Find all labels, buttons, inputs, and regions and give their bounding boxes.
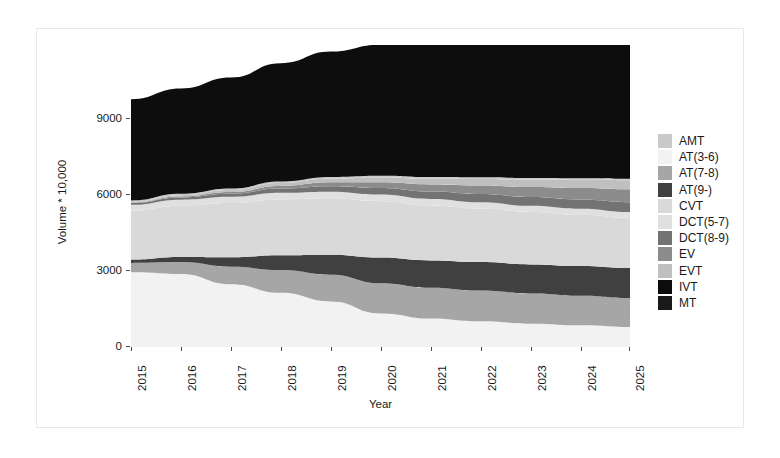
legend-swatch-icon <box>658 296 672 310</box>
figure-root: Volume * 10,000 9000 6000 3000 0 2015 20… <box>0 0 780 458</box>
y-tick-mark-6000 <box>126 194 130 195</box>
y-tick-label-3000: 3000 <box>62 264 122 276</box>
y-tick-label-6000: 6000 <box>62 188 122 200</box>
legend-item-label: AT(3-6) <box>679 151 719 163</box>
legend-item[interactable]: AT(3-6) <box>658 149 729 165</box>
y-tick-mark-9000 <box>126 118 130 119</box>
x-tick-label-2025: 2025 <box>634 365 646 391</box>
y-axis-title: Volume * 10,000 <box>56 122 68 282</box>
x-tick-mark-2020 <box>381 347 382 351</box>
legend-swatch-icon <box>658 166 672 180</box>
legend-item-label: AT(9-) <box>679 184 712 196</box>
legend-item[interactable]: AMT <box>658 133 729 149</box>
legend-item[interactable]: AT(7-8) <box>658 165 729 181</box>
y-tick-mark-3000 <box>126 270 130 271</box>
legend-item[interactable]: MT <box>658 295 729 311</box>
legend-item[interactable]: EVT <box>658 263 729 279</box>
legend-item-label: AMT <box>679 135 704 147</box>
x-tick-mark-2015 <box>131 347 132 351</box>
legend-item-label: IVT <box>679 281 698 293</box>
plot-panel <box>131 45 630 347</box>
legend-swatch-icon <box>658 231 672 245</box>
legend-item[interactable]: DCT(8-9) <box>658 230 729 246</box>
x-tick-mark-2022 <box>481 347 482 351</box>
legend-item[interactable]: IVT <box>658 279 729 295</box>
legend-swatch-icon <box>658 215 672 229</box>
legend-swatch-icon <box>658 150 672 164</box>
y-tick-mark-0 <box>126 346 130 347</box>
legend-item-label: AT(7-8) <box>679 167 719 179</box>
legend-item-label: DCT(8-9) <box>679 232 729 244</box>
x-tick-label-2024: 2024 <box>586 365 598 391</box>
legend-item-label: EVT <box>679 265 702 277</box>
y-tick-label-9000: 9000 <box>62 112 122 124</box>
legend-item-label: EV <box>679 248 695 260</box>
x-tick-label-2018: 2018 <box>286 365 298 391</box>
x-tick-mark-2023 <box>531 347 532 351</box>
x-tick-mark-2018 <box>281 347 282 351</box>
area-layer-group <box>131 45 630 347</box>
legend-swatch-icon <box>658 247 672 261</box>
x-tick-label-2020: 2020 <box>386 365 398 391</box>
legend-item[interactable]: CVT <box>658 198 729 214</box>
legend-item[interactable]: EV <box>658 246 729 262</box>
x-tick-label-2017: 2017 <box>236 365 248 391</box>
stacked-area-chart <box>131 45 630 347</box>
x-tick-mark-2017 <box>231 347 232 351</box>
legend: AMTAT(3-6)AT(7-8)AT(9-)CVTDCT(5-7)DCT(8-… <box>658 133 729 311</box>
legend-swatch-icon <box>658 199 672 213</box>
x-tick-mark-2024 <box>581 347 582 351</box>
x-tick-mark-2016 <box>181 347 182 351</box>
legend-item-label: CVT <box>679 200 703 212</box>
legend-item-label: DCT(5-7) <box>679 216 729 228</box>
legend-swatch-icon <box>658 134 672 148</box>
legend-item[interactable]: DCT(5-7) <box>658 214 729 230</box>
x-tick-mark-2025 <box>629 347 630 351</box>
legend-item[interactable]: AT(9-) <box>658 182 729 198</box>
legend-swatch-icon <box>658 280 672 294</box>
x-tick-label-2021: 2021 <box>436 365 448 391</box>
x-tick-label-2016: 2016 <box>186 365 198 391</box>
x-axis-title: Year <box>131 398 630 410</box>
legend-item-label: MT <box>679 297 696 309</box>
y-tick-label-0: 0 <box>62 340 122 352</box>
x-tick-label-2022: 2022 <box>486 365 498 391</box>
x-tick-label-2015: 2015 <box>136 365 148 391</box>
x-tick-label-2019: 2019 <box>336 365 348 391</box>
legend-swatch-icon <box>658 183 672 197</box>
x-tick-label-2023: 2023 <box>536 365 548 391</box>
legend-swatch-icon <box>658 264 672 278</box>
x-tick-mark-2019 <box>331 347 332 351</box>
x-tick-mark-2021 <box>431 347 432 351</box>
